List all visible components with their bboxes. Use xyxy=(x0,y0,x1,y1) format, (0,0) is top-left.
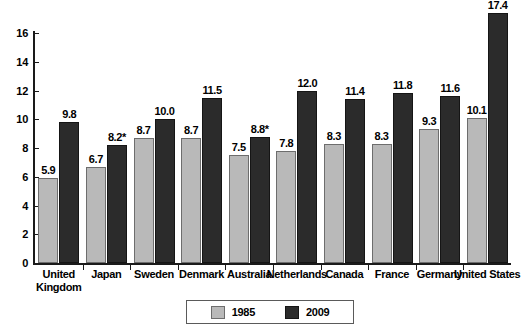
legend-entry-1985: 1985 xyxy=(211,306,255,319)
bar-group: 9.311.6 xyxy=(419,10,460,263)
bar-value-label: 17.4 xyxy=(478,0,518,11)
bar-1985-united-states xyxy=(467,118,487,263)
bar-value-label: 8.8* xyxy=(240,124,280,135)
y-axis-tick-label: 2 xyxy=(0,229,28,239)
bar-1985-denmark xyxy=(181,138,201,263)
legend-label-1985: 1985 xyxy=(232,306,255,318)
bar-value-label: 10.0 xyxy=(145,106,185,117)
bar-2009-japan xyxy=(107,145,127,263)
legend-entry-2009: 2009 xyxy=(285,306,329,319)
chart-legend: 1985 2009 xyxy=(186,300,354,324)
y-axis-tick-label: 10 xyxy=(0,114,28,124)
bar-2009-germany xyxy=(440,96,460,263)
x-axis-label-line: Kingdom xyxy=(14,281,104,294)
bar-2009-united-states xyxy=(488,13,508,263)
bar-group: 7.812.0 xyxy=(276,10,317,263)
x-axis-label-united-states: United States xyxy=(442,268,525,281)
bar-value-label: 12.0 xyxy=(287,78,327,89)
y-axis-tick-label: 0 xyxy=(0,258,28,268)
bar-2009-australia xyxy=(250,137,270,264)
bar-2009-denmark xyxy=(202,98,222,263)
bar-2009-netherlands xyxy=(297,91,317,264)
bar-1985-france xyxy=(372,144,392,263)
bar-group: 7.58.8* xyxy=(229,10,270,263)
bar-1985-japan xyxy=(86,167,106,263)
x-axis-label-line: United States xyxy=(442,268,525,281)
bar-group: 8.311.8 xyxy=(372,10,413,263)
y-axis-tick-label: 14 xyxy=(0,57,28,67)
bar-value-label: 11.6 xyxy=(430,83,470,94)
bar-2009-canada xyxy=(345,99,365,263)
bar-group: 8.710.0 xyxy=(134,10,175,263)
bar-value-label: 11.5 xyxy=(192,85,232,96)
bar-2009-united-kingdom xyxy=(59,122,79,263)
bar-value-label: 11.4 xyxy=(335,86,375,97)
y-axis-tick-label: 6 xyxy=(0,172,28,182)
bar-value-label: 9.8 xyxy=(49,109,89,120)
y-axis-tick-mark xyxy=(33,263,39,264)
bar-1985-netherlands xyxy=(276,151,296,263)
legend-label-2009: 2009 xyxy=(306,306,329,318)
bar-group: 6.78.2* xyxy=(86,10,127,263)
y-axis-tick-label: 4 xyxy=(0,201,28,211)
bar-1985-australia xyxy=(229,155,249,263)
x-axis-line xyxy=(33,263,511,265)
bar-1985-sweden xyxy=(134,138,154,263)
bar-2009-sweden xyxy=(155,119,175,263)
bar-group: 8.711.5 xyxy=(181,10,222,263)
y-axis-tick-label: 16 xyxy=(0,28,28,38)
y-axis-tick-label: 8 xyxy=(0,143,28,153)
bar-1985-germany xyxy=(419,129,439,263)
y-axis-tick-label: 12 xyxy=(0,86,28,96)
bar-1985-united-kingdom xyxy=(38,178,58,263)
bar-group: 8.311.4 xyxy=(324,10,365,263)
bar-value-label: 11.8 xyxy=(383,80,423,91)
bar-1985-canada xyxy=(324,144,344,263)
bar-group: 5.99.8 xyxy=(38,10,79,263)
legend-swatch-2009-icon xyxy=(285,306,299,319)
legend-swatch-1985-icon xyxy=(211,306,225,319)
bar-group: 10.117.4 xyxy=(467,10,508,263)
